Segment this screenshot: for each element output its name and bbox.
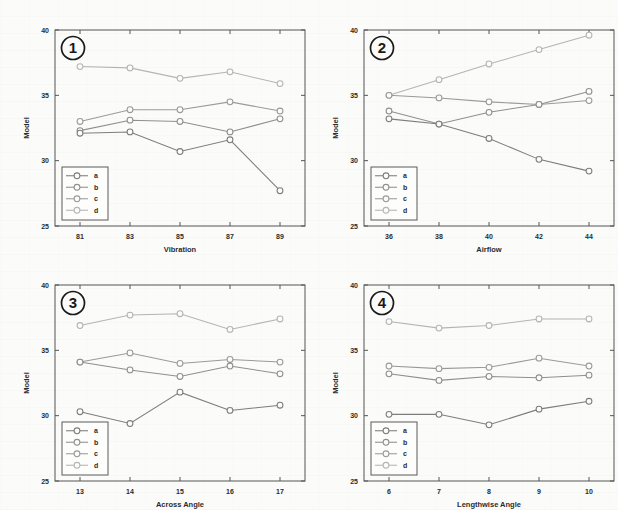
legend-box[interactable] <box>62 167 108 220</box>
series-line-a <box>389 401 589 425</box>
data-point-c <box>227 99 233 105</box>
x-tick-label: 89 <box>276 233 284 240</box>
data-point-a <box>586 398 592 404</box>
data-point-b <box>536 102 542 108</box>
x-tick-label: 42 <box>535 233 543 240</box>
legend-label-d: d <box>94 462 98 469</box>
legend-label-b: b <box>403 184 407 191</box>
data-point-a <box>177 149 183 155</box>
data-point-d <box>127 312 133 318</box>
data-point-d <box>536 47 542 53</box>
data-point-d <box>536 316 542 322</box>
legend-label-c: c <box>94 195 98 202</box>
y-tick-label: 35 <box>350 347 358 354</box>
panel-3: 131415161725303540Across AngleModel3abcd <box>0 255 309 510</box>
legend-box[interactable] <box>371 422 417 475</box>
y-tick-label: 35 <box>350 92 358 99</box>
data-point-d <box>386 319 392 325</box>
data-point-c <box>586 98 592 104</box>
panel-2-plot: 363840424425303540AirflowModel2abcd <box>309 0 618 255</box>
y-axis-label: Model <box>22 117 31 139</box>
data-point-b <box>177 119 183 125</box>
data-point-d <box>127 65 133 71</box>
panel-3-plot: 131415161725303540Across AngleModel3abcd <box>0 255 309 510</box>
y-axis-label: Model <box>331 372 340 394</box>
data-point-b <box>586 89 592 95</box>
data-point-a <box>436 121 442 127</box>
y-tick-label: 40 <box>350 27 358 34</box>
x-tick-label: 81 <box>76 233 84 240</box>
legend-marker-d <box>383 207 389 213</box>
x-tick-label: 16 <box>226 488 234 495</box>
legend-label-a: a <box>94 172 98 179</box>
data-point-b <box>586 372 592 378</box>
x-axis-label: Across Angle <box>156 500 204 509</box>
data-point-c <box>277 108 283 114</box>
series-line-a <box>80 132 280 191</box>
x-tick-label: 17 <box>276 488 284 495</box>
legend-label-c: c <box>403 450 407 457</box>
data-point-d <box>77 323 83 329</box>
y-axis-label: Model <box>22 372 31 394</box>
panel-number-label: 3 <box>69 294 77 311</box>
legend-label-d: d <box>94 207 98 214</box>
legend-marker-b <box>74 439 80 445</box>
data-point-c <box>386 92 392 98</box>
data-point-b <box>177 374 183 380</box>
legend-box[interactable] <box>371 167 417 220</box>
legend-label-b: b <box>94 184 98 191</box>
x-tick-label: 40 <box>485 233 493 240</box>
y-tick-label: 25 <box>41 223 49 230</box>
data-point-b <box>277 371 283 377</box>
legend-marker-b <box>383 184 389 190</box>
data-point-c <box>436 366 442 372</box>
data-point-b <box>277 116 283 122</box>
legend-marker-b <box>74 184 80 190</box>
series-line-a <box>80 392 280 423</box>
x-axis-label: Airflow <box>476 245 502 254</box>
y-tick-label: 40 <box>41 282 49 289</box>
series-line-a <box>389 119 589 171</box>
data-point-c <box>127 107 133 113</box>
data-point-d <box>486 323 492 329</box>
data-point-c <box>277 359 283 365</box>
data-point-b <box>486 374 492 380</box>
data-point-a <box>77 409 83 415</box>
legend-label-a: a <box>94 427 98 434</box>
data-point-c <box>586 363 592 369</box>
legend-marker-c <box>383 196 389 202</box>
data-point-a <box>486 422 492 428</box>
data-point-a <box>177 389 183 395</box>
data-point-c <box>486 99 492 105</box>
legend-marker-d <box>383 462 389 468</box>
legend-box[interactable] <box>62 422 108 475</box>
panel-4-plot: 67891025303540Lengthwise AngleModel4abcd <box>309 255 618 510</box>
data-point-b <box>436 377 442 383</box>
x-tick-label: 13 <box>76 488 84 495</box>
x-tick-label: 87 <box>226 233 234 240</box>
x-tick-label: 36 <box>385 233 393 240</box>
y-axis-label: Model <box>331 117 340 139</box>
legend-marker-d <box>74 207 80 213</box>
y-tick-label: 35 <box>41 92 49 99</box>
panel-number-label: 2 <box>378 39 386 56</box>
data-point-d <box>486 61 492 67</box>
x-tick-label: 6 <box>387 488 391 495</box>
legend-marker-c <box>74 451 80 457</box>
x-tick-label: 9 <box>537 488 541 495</box>
data-point-d <box>586 32 592 38</box>
x-tick-label: 38 <box>435 233 443 240</box>
legend-marker-d <box>74 462 80 468</box>
panel-2: 363840424425303540AirflowModel2abcd <box>309 0 618 255</box>
panel-1: 818385878925303540VibrationModel1abcd <box>0 0 309 255</box>
data-point-b <box>227 363 233 369</box>
x-tick-label: 14 <box>126 488 134 495</box>
data-point-a <box>386 411 392 417</box>
y-tick-label: 30 <box>41 412 49 419</box>
x-tick-label: 83 <box>126 233 134 240</box>
data-point-b <box>77 359 83 365</box>
data-point-b <box>536 375 542 381</box>
panel-number-label: 1 <box>69 39 77 56</box>
data-point-a <box>536 156 542 162</box>
data-point-a <box>586 168 592 174</box>
